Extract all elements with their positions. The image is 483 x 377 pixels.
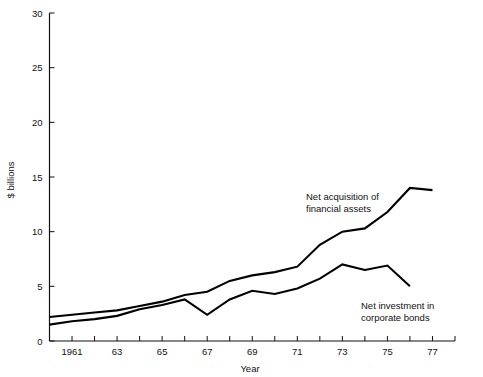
annotation-lower-line1: Net investment in xyxy=(361,300,434,311)
x-tick-label: 77 xyxy=(427,346,438,357)
y-axis-title: $ billions xyxy=(5,161,16,198)
line-chart: 051015202530 19616365676971737577 $ bill… xyxy=(0,0,483,377)
x-tick-label: 75 xyxy=(382,346,393,357)
annotation-upper-line2: financial assets xyxy=(306,203,371,214)
x-tick-label: 69 xyxy=(247,346,258,357)
annotation-upper-line1: Net acquisition of xyxy=(306,191,379,202)
y-tick-label: 30 xyxy=(32,8,43,19)
x-axis-title: Year xyxy=(240,363,259,374)
y-tick-label: 20 xyxy=(32,117,43,128)
annotation-lower-line2: corporate bonds xyxy=(361,312,430,323)
x-axis-tick-labels: 19616365676971737577 xyxy=(61,346,437,357)
y-tick-label: 10 xyxy=(32,226,43,237)
x-tick-label: 67 xyxy=(202,346,213,357)
x-tick-label: 73 xyxy=(337,346,348,357)
y-tick-label: 15 xyxy=(32,172,43,183)
y-tick-label: 0 xyxy=(37,336,42,347)
x-tick-label: 65 xyxy=(157,346,168,357)
x-tick-label: 1961 xyxy=(61,346,82,357)
y-tick-label: 5 xyxy=(37,281,42,292)
x-tick-label: 71 xyxy=(292,346,303,357)
chart-container: 051015202530 19616365676971737577 $ bill… xyxy=(0,0,483,377)
y-tick-label: 25 xyxy=(32,62,43,73)
x-tick-label: 63 xyxy=(112,346,123,357)
